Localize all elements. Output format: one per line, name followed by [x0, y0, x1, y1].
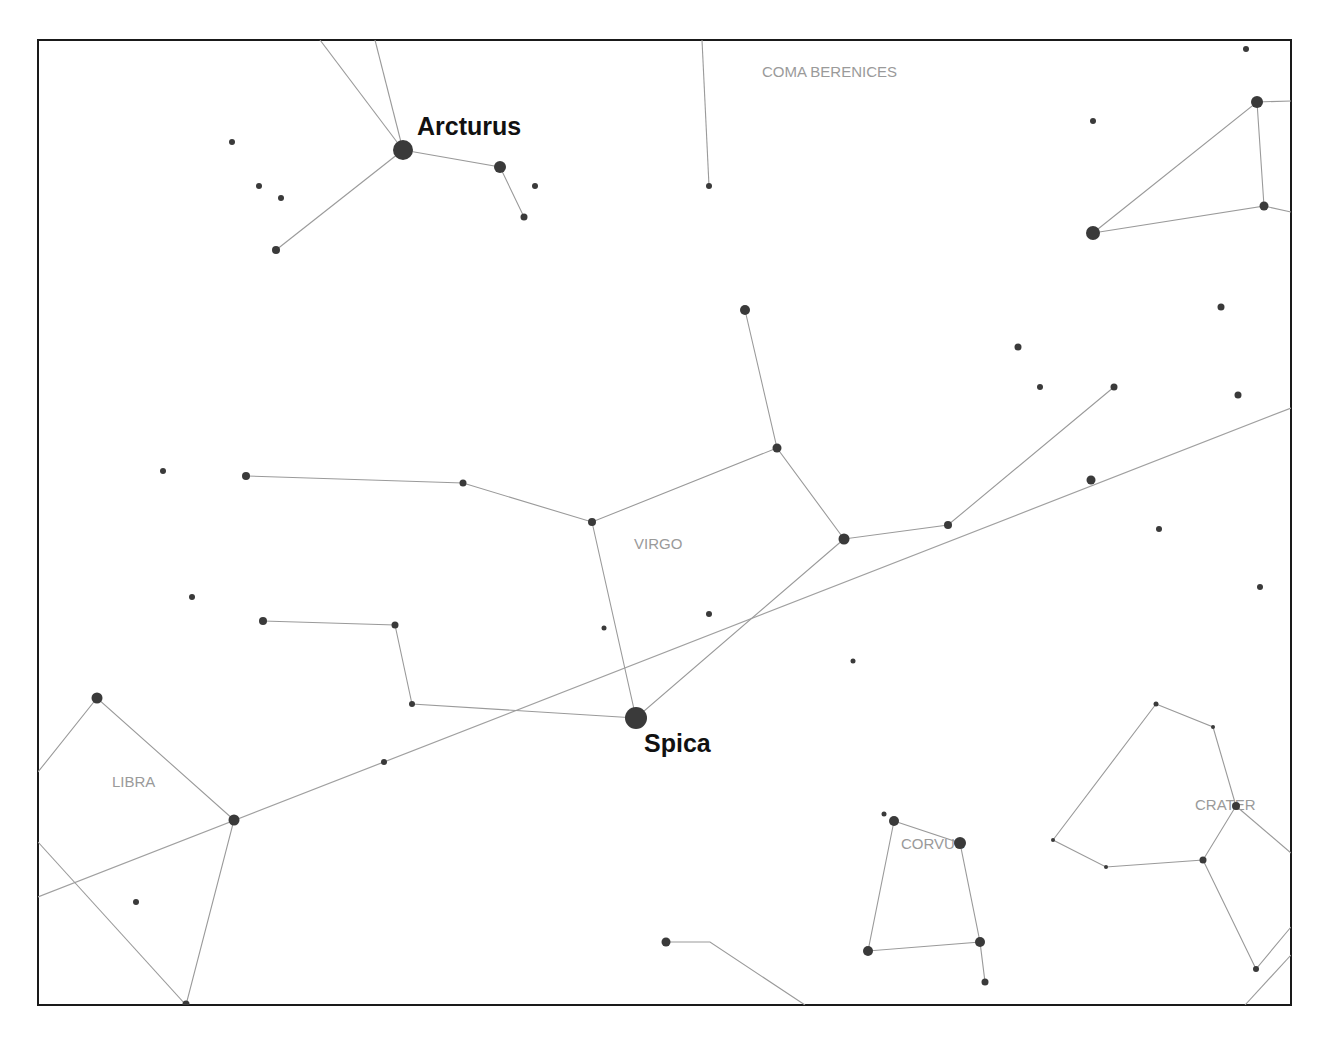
- star: [882, 812, 887, 817]
- star: [1257, 584, 1263, 590]
- star: [92, 693, 103, 704]
- constellation-label-crater: CRATER: [1195, 796, 1256, 813]
- star: [532, 183, 538, 189]
- star: [229, 815, 240, 826]
- star-chart: COMA BERENICESVIRGOLIBRACORVUSCRATER Arc…: [0, 0, 1330, 1042]
- constellation-line: [1236, 806, 1291, 853]
- star: [706, 183, 712, 189]
- star: [863, 946, 873, 956]
- star: [460, 480, 467, 487]
- star: [229, 139, 235, 145]
- star: [954, 837, 966, 849]
- star: [839, 534, 850, 545]
- star: [1051, 838, 1055, 842]
- constellation-line: [403, 150, 524, 217]
- constellation-line: [592, 522, 844, 718]
- star: [1087, 476, 1096, 485]
- constellation-line: [702, 40, 709, 186]
- star: [242, 472, 250, 480]
- star: [409, 701, 415, 707]
- constellation-line: [263, 621, 636, 718]
- star: [278, 195, 284, 201]
- constellation-line: [38, 842, 186, 1005]
- star: [588, 518, 596, 526]
- star: [662, 938, 671, 947]
- constellation-line: [375, 40, 403, 150]
- star: [1260, 202, 1269, 211]
- constellation-line: [666, 942, 805, 1005]
- star: [1015, 344, 1022, 351]
- star-spica: [625, 707, 647, 729]
- star: [392, 622, 399, 629]
- star: [1218, 304, 1225, 311]
- ecliptic-line: [38, 408, 1291, 897]
- stars: [92, 46, 1269, 1008]
- star: [982, 979, 989, 986]
- constellation-line: [320, 40, 403, 150]
- constellation-line: [1093, 102, 1264, 233]
- star-labels: ArcturusSpica: [417, 112, 712, 757]
- star: [521, 214, 528, 221]
- chart-frame: [38, 40, 1291, 1005]
- star: [1156, 526, 1162, 532]
- star: [944, 521, 952, 529]
- constellation-line: [980, 942, 985, 982]
- constellation-line: [276, 150, 403, 250]
- star: [1154, 702, 1159, 707]
- star-label-arcturus: Arcturus: [417, 112, 521, 140]
- star: [183, 1001, 190, 1008]
- star: [1090, 118, 1096, 124]
- star: [706, 611, 712, 617]
- constellation-line: [1053, 704, 1236, 867]
- star: [272, 246, 280, 254]
- star-arcturus: [393, 140, 413, 160]
- star: [189, 594, 195, 600]
- constellation-line: [745, 310, 1114, 539]
- ecliptic: [38, 408, 1291, 897]
- star: [1111, 384, 1118, 391]
- star: [851, 659, 856, 664]
- star: [773, 444, 782, 453]
- star: [975, 937, 985, 947]
- constellation-line: [1203, 860, 1291, 969]
- constellation-label-coma-berenices: COMA BERENICES: [762, 63, 897, 80]
- star: [1104, 865, 1108, 869]
- star: [889, 816, 899, 826]
- star: [1251, 96, 1263, 108]
- constellation-line: [1245, 955, 1291, 1005]
- star: [1211, 725, 1215, 729]
- star: [256, 183, 262, 189]
- constellation-line: [246, 448, 777, 522]
- star: [1243, 46, 1249, 52]
- star: [1200, 857, 1207, 864]
- constellation-label-virgo: VIRGO: [634, 535, 682, 552]
- constellation-lines: [38, 40, 1291, 1005]
- star: [1235, 392, 1242, 399]
- star: [494, 161, 506, 173]
- constellation-line: [38, 698, 234, 1005]
- star: [740, 305, 750, 315]
- star: [1037, 384, 1043, 390]
- star: [1232, 802, 1240, 810]
- star: [381, 759, 387, 765]
- star: [602, 626, 607, 631]
- star: [160, 468, 166, 474]
- star: [259, 617, 267, 625]
- star: [1086, 226, 1100, 240]
- constellation-label-libra: LIBRA: [112, 773, 155, 790]
- star: [1253, 966, 1259, 972]
- star-label-spica: Spica: [644, 729, 712, 757]
- star: [133, 899, 139, 905]
